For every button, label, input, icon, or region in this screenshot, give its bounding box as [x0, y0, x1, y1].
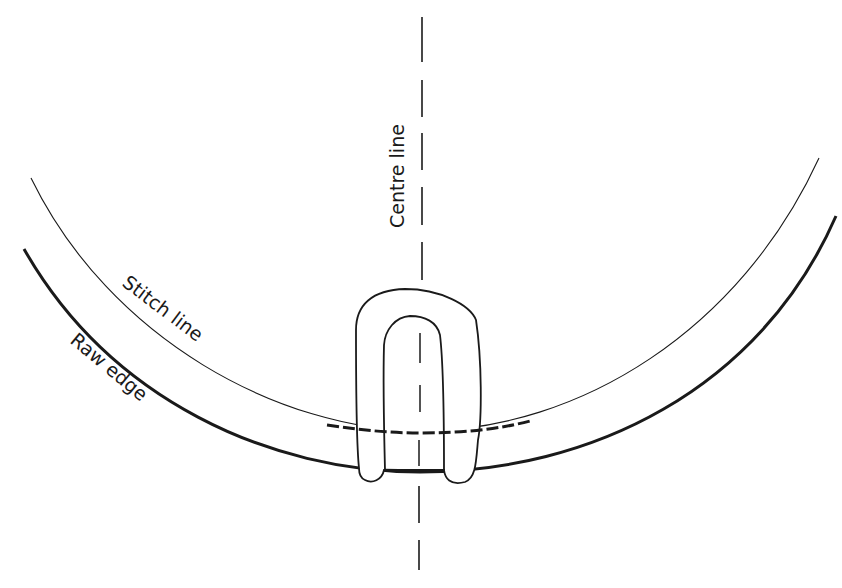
- raw-edge-label: Raw edge: [66, 328, 152, 405]
- seam-diagram: Centre line Stitch line Raw edge: [0, 0, 842, 588]
- centre-line-label: Centre line: [386, 124, 408, 228]
- stitch-line-label: Stitch line: [119, 271, 208, 346]
- diagram-canvas: Centre line Stitch line Raw edge: [0, 0, 842, 588]
- tab-loop: [356, 289, 481, 483]
